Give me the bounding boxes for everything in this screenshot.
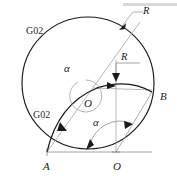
g02-arc-direction-arrow-upper	[107, 82, 116, 89]
line-o-to-b	[116, 92, 152, 152]
label-point-b: B	[160, 91, 167, 102]
label-g02-lower: G02	[33, 110, 50, 120]
radius-outer-leader-arrow	[119, 23, 126, 30]
outer-circle	[22, 17, 154, 149]
radial-construction-line	[47, 22, 140, 152]
label-point-o-center: O	[84, 98, 92, 109]
label-angle-lower: α	[93, 117, 99, 128]
label-point-a: A	[43, 161, 50, 172]
label-g02-upper: G02	[26, 26, 43, 36]
figure-container: G02 G02 A O O B R R α α	[0, 0, 177, 184]
label-radius-outer: R	[143, 6, 149, 17]
label-angle-upper: α	[64, 63, 70, 74]
label-point-o-bottom: O	[113, 161, 121, 172]
radius-inner-leader-arrow	[112, 73, 120, 82]
label-radius-inner: R	[121, 52, 127, 63]
radius-inner-leader-line	[116, 63, 140, 76]
